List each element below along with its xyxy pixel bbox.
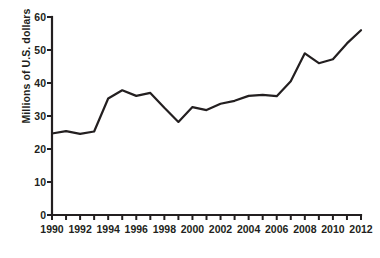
plot-area <box>0 0 380 258</box>
x-axis-tick-label: 2012 <box>341 224 380 235</box>
data-series-line <box>52 30 361 134</box>
axis-lines <box>52 17 361 215</box>
line-chart: Millions of U.S. dollars 0102030405060 1… <box>0 0 380 258</box>
